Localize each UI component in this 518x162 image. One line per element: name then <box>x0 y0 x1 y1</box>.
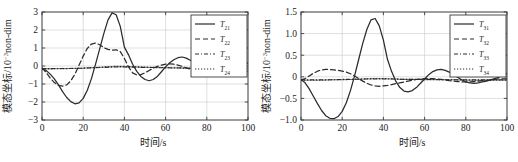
x-tick-label: 20 <box>78 123 88 133</box>
x-tick-label: 60 <box>161 123 171 133</box>
y-tick-label: 2 <box>33 25 38 35</box>
svg-text:模态坐标/10−3non-dim: 模态坐标/10−3non-dim <box>260 19 272 113</box>
x-tick-label: 80 <box>461 123 471 133</box>
y-tick-label: −2 <box>28 97 38 107</box>
y-tick-label: 1.5 <box>285 7 297 17</box>
x-tick-label: 40 <box>120 123 130 133</box>
y-tick-labels: −1.0−0.500.51.01.5 <box>280 7 297 125</box>
y-tick-label: 0.5 <box>285 51 297 61</box>
y-tick-label: 1 <box>33 43 38 53</box>
y-tick-labels: −3−2−10123 <box>28 7 38 125</box>
y-tick-label: 0 <box>33 61 38 71</box>
x-tick-label: 100 <box>500 123 515 133</box>
y-tick-label: 1.0 <box>285 29 297 39</box>
chart-panel-right: 020406080100−1.0−0.500.51.01.5时间/s模态坐标/1… <box>259 0 518 162</box>
figure-container: 020406080100−3−2−10123时间/s模态坐标/10−3non-d… <box>0 0 518 162</box>
x-tick-label: 40 <box>379 123 389 133</box>
x-tick-labels: 020406080100 <box>40 123 256 133</box>
x-tick-labels: 020406080100 <box>299 123 515 133</box>
chart-legend: T31T32T33T34 <box>450 15 506 77</box>
x-axis-title: 时间/s <box>140 136 167 148</box>
chart-legend: T21T22T23T24 <box>191 15 247 77</box>
plot-svg: 020406080100−3−2−10123时间/s模态坐标/10−3non-d… <box>0 0 259 162</box>
x-tick-label: 0 <box>299 123 304 133</box>
y-axis-title: 模态坐标/10−3non-dim <box>260 19 272 113</box>
x-tick-label: 80 <box>202 123 212 133</box>
x-tick-label: 20 <box>337 123 347 133</box>
chart-panel-left: 020406080100−3−2−10123时间/s模态坐标/10−3non-d… <box>0 0 259 162</box>
x-tick-label: 100 <box>241 123 256 133</box>
y-tick-label: −1 <box>28 79 38 89</box>
x-tick-label: 60 <box>420 123 430 133</box>
y-axis-title: 模态坐标/10−3non-dim <box>1 19 13 113</box>
y-tick-label: −1.0 <box>280 115 297 125</box>
x-tick-label: 0 <box>40 123 45 133</box>
y-tick-label: 3 <box>33 7 38 17</box>
x-axis-title: 时间/s <box>399 136 426 148</box>
plot-svg: 020406080100−1.0−0.500.51.01.5时间/s模态坐标/1… <box>259 0 518 162</box>
y-tick-label: −3 <box>28 115 38 125</box>
y-tick-label: 0 <box>292 72 297 82</box>
y-tick-label: −0.5 <box>280 94 297 104</box>
svg-text:模态坐标/10−3non-dim: 模态坐标/10−3non-dim <box>1 19 13 113</box>
